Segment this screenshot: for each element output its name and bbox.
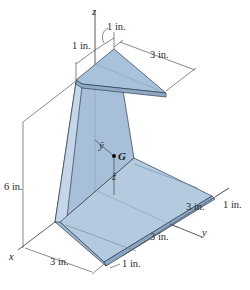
svg-text:3 in.: 3 in. xyxy=(186,201,205,212)
svg-text:3 in.: 3 in. xyxy=(50,256,69,267)
y-axis: y xyxy=(170,224,207,238)
svg-text:6 in.: 6 in. xyxy=(4,181,23,192)
centroid-dot xyxy=(112,154,116,158)
zbar-label: z̄ xyxy=(111,171,116,182)
dimension-top-1-right: 1 in. xyxy=(95,21,126,50)
z-axis-label: z xyxy=(91,6,96,17)
ybar-label: ȳ xyxy=(98,140,104,151)
svg-text:1 in.: 1 in. xyxy=(107,21,126,32)
svg-text:3 in.: 3 in. xyxy=(150,231,169,242)
svg-text:1 in.: 1 in. xyxy=(122,258,141,269)
centroid-label: G xyxy=(118,150,126,162)
svg-text:3 in.: 3 in. xyxy=(150,49,169,60)
svg-text:1 in.: 1 in. xyxy=(72,40,91,51)
y-axis-label: y xyxy=(201,227,207,238)
x-axis-label: x xyxy=(8,251,14,262)
svg-text:1 in.: 1 in. xyxy=(223,199,242,210)
bracket-diagram: z y x G ȳ z̄ xyxy=(0,0,250,290)
